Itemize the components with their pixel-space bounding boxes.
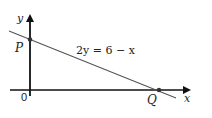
- x-axis-label: x: [184, 92, 191, 105]
- point-p-marker: [28, 37, 32, 41]
- point-q-label: Q: [147, 93, 157, 107]
- line-2y-equals-6-minus-x: [9, 31, 176, 98]
- line-equation-label: 2y = 6 − x: [76, 44, 136, 57]
- point-p-label: P: [14, 41, 24, 55]
- y-axis-label: y: [16, 12, 24, 25]
- origin-label: 0: [21, 91, 27, 103]
- point-q-marker: [157, 88, 161, 92]
- coordinate-diagram: y P 0 Q x 2y = 6 − x: [0, 0, 212, 118]
